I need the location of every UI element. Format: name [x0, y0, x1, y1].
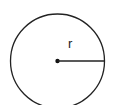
circle-diagram: r [0, 0, 113, 105]
radius-label: r [68, 36, 73, 51]
